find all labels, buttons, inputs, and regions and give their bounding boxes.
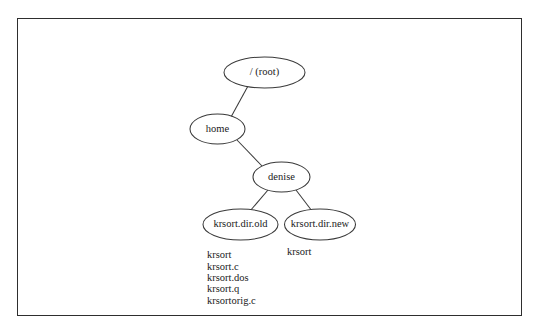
- edge-root-home: [231, 86, 248, 117]
- node-home[interactable]: home: [190, 114, 245, 144]
- edge-denise-dirold: [250, 190, 268, 211]
- diagram-root: / (root) home denise krsort.dir.old krso…: [0, 0, 542, 334]
- node-root-label: / (root): [250, 66, 280, 78]
- file-list-layer: krsortkrsort.ckrsort.doskrsort.qkrsortor…: [207, 246, 312, 305]
- node-krsort-dir-new-label: krsort.dir.new: [291, 218, 350, 229]
- node-home-label: home: [206, 123, 230, 134]
- node-root[interactable]: / (root): [224, 57, 305, 88]
- file-list-item: krsort.dos: [207, 272, 249, 283]
- edge-home-denise: [237, 140, 262, 166]
- node-denise[interactable]: denise: [253, 162, 310, 192]
- directory-tree-canvas: / (root) home denise krsort.dir.old krso…: [0, 0, 542, 334]
- file-list-item: krsort.c: [207, 261, 239, 272]
- file-list-item: krsortorig.c: [207, 295, 256, 306]
- node-group: / (root) home denise krsort.dir.old krso…: [190, 57, 356, 240]
- edge-denise-dirnew: [296, 190, 312, 211]
- edge-group: [231, 86, 312, 211]
- node-krsort-dir-old-label: krsort.dir.old: [213, 218, 268, 229]
- file-list-item: krsort.q: [207, 283, 240, 294]
- node-krsort-dir-old[interactable]: krsort.dir.old: [203, 209, 278, 240]
- file-list-item: krsort: [207, 249, 232, 260]
- node-denise-label: denise: [268, 171, 295, 182]
- file-list-item: krsort: [287, 246, 312, 257]
- node-krsort-dir-new[interactable]: krsort.dir.new: [285, 209, 356, 240]
